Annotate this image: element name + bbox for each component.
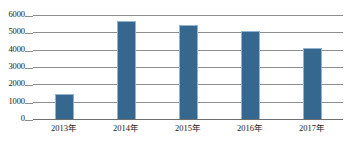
x-axis-labels: 2013年 2014年 2015年 2016年 2017年 xyxy=(33,122,343,138)
y-axis-tick-label: 0 xyxy=(0,114,25,123)
y-axis-tick-label: 4000 xyxy=(0,45,25,54)
axis-baseline xyxy=(33,119,343,120)
y-axis-tick xyxy=(25,103,33,104)
y-axis-tick-label: 5000 xyxy=(0,27,25,36)
y-axis-tick xyxy=(25,16,33,17)
bar-2014 xyxy=(117,21,136,119)
y-axis-tick xyxy=(25,68,33,69)
y-axis-labels: 6000 5000 4000 3000 2000 1000 0 xyxy=(0,0,25,144)
bar-2013 xyxy=(55,94,74,119)
y-axis-tick xyxy=(25,51,33,52)
bar-series xyxy=(33,15,343,119)
bar-2017 xyxy=(303,48,322,119)
x-axis-tick-label-2015: 2015年 xyxy=(157,122,219,134)
x-axis-tick-label-2013: 2013年 xyxy=(33,122,95,134)
y-axis-tick-label: 6000 xyxy=(0,10,25,19)
x-axis-tick-label-2016: 2016年 xyxy=(219,122,281,134)
plot-area xyxy=(33,15,343,119)
y-axis-tick xyxy=(25,33,33,34)
bar-2015 xyxy=(179,25,198,119)
x-axis-tick-label-2014: 2014年 xyxy=(95,122,157,134)
bar-2016 xyxy=(241,31,260,119)
y-axis-tick-label: 1000 xyxy=(0,97,25,106)
x-axis-tick-label-2017: 2017年 xyxy=(281,122,343,134)
y-axis-tick-label: 2000 xyxy=(0,79,25,88)
bar-chart: 6000 5000 4000 3000 2000 1000 0 xyxy=(0,0,350,144)
y-axis-tick xyxy=(25,85,33,86)
y-axis-tick-label: 3000 xyxy=(0,62,25,71)
y-axis-tick xyxy=(25,120,33,121)
